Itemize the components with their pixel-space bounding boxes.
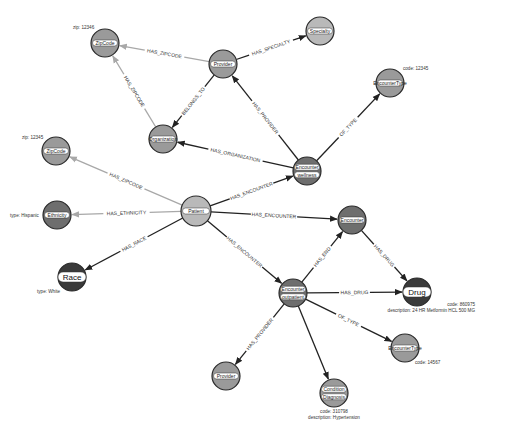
node-label: wellness [297, 172, 317, 178]
node-label: Diagnosis [323, 394, 345, 400]
node-org[interactable]: Organization [149, 125, 178, 153]
node-race[interactable]: Racetype: White [37, 263, 86, 294]
relationship-label: HAS_PROVIDER [245, 316, 275, 351]
node-enc-outpatient[interactable]: Encounteroutpatient [279, 279, 307, 307]
node-property: zip: 12346 [73, 25, 95, 30]
relationship-has-zipcode[interactable]: HAS_ZIPCODE [120, 46, 209, 62]
node-ethnicity[interactable]: Ethnicitytype: Hispanic [10, 201, 71, 229]
relationship-has-ethnicity[interactable]: HAS_ETHNICITY [72, 209, 181, 216]
relationship-has-provider[interactable]: HAS_PROVIDER [235, 304, 284, 364]
node-label: EncounterType [388, 345, 422, 351]
node-provider2[interactable]: Provider [212, 362, 240, 390]
node-label: Ethnicity [48, 212, 67, 218]
node-label: EncounterType [373, 80, 407, 86]
relationship-of-type[interactable]: OF_TYPE [306, 299, 392, 341]
node-property: code: 310798 [320, 409, 348, 414]
node-enctype1[interactable]: EncounterTypecode: 12345 [373, 66, 429, 97]
relationship-has-encounter[interactable]: HAS_ENCOUNTER [211, 211, 337, 220]
node-label: Patient [188, 208, 204, 214]
node-property: code: 860975 [447, 302, 475, 307]
node-label: outpatient [282, 294, 305, 300]
relationship-has-specialty[interactable]: HAS_SPECIALTY [236, 36, 306, 60]
relationship-belongs-to[interactable]: BELONGS_TO [172, 75, 214, 127]
node-property: type: White [37, 289, 60, 294]
relationship-label: OF_TYPE [337, 312, 361, 328]
relationship-has-zipcode[interactable]: HAS_ZIPCODE [113, 56, 156, 127]
nodes-layer: ZipCodezip: 12346ProviderSpecialtyOrgani… [10, 17, 475, 420]
relationship-of-type[interactable]: OF_TYPE [317, 94, 380, 161]
node-label: ZipCode [96, 40, 115, 46]
node-specialty[interactable]: Specialty [306, 17, 334, 45]
relationship-has-end[interactable]: HAS_END [302, 232, 343, 282]
node-property: code: 12345 [403, 66, 429, 71]
relationship-has-drug[interactable]: HAS_DRUG [361, 230, 407, 280]
node-label: Drug [408, 288, 425, 297]
node-property: type: Hispanic [10, 213, 40, 218]
relationship-label: BELONGS_TO [180, 86, 206, 116]
relationship-label: HAS_END [312, 245, 332, 267]
node-label: ZipCode [47, 148, 66, 154]
relationship-label: HAS_PROVIDER [251, 100, 280, 135]
relationship-label: HAS_ORGANIZATION [210, 146, 261, 163]
node-label: Encounter [296, 164, 319, 170]
relationship-label: HAS_ZIPCODE [123, 75, 147, 109]
graph-canvas[interactable]: HAS_ZIPCODEHAS_SPECIALTYBELONGS_TOHAS_ZI… [0, 0, 531, 434]
relationship-has-encounter[interactable]: HAS_ENCOUNTER [210, 176, 293, 206]
node-enctype2[interactable]: EncounterTypecode: 14567 [388, 334, 441, 365]
relationship-has-race[interactable]: HAS_RACE [85, 218, 183, 270]
relationship-edge[interactable] [298, 306, 328, 379]
node-zip2[interactable]: ZipCodezip: 12345 [22, 135, 70, 165]
relationship-label: HAS_SPECIALTY [251, 38, 292, 57]
relationship-has-encounter[interactable]: HAS_ENCOUNTER [207, 221, 281, 284]
node-label: Encounter [341, 217, 364, 223]
relationship-has-zipcode[interactable]: HAS_ZIPCODE [70, 157, 182, 205]
relationship-has-provider[interactable]: HAS_PROVIDER [232, 76, 298, 160]
node-property: description: 24 HR Metformin HCL 500 MG [388, 308, 476, 313]
node-condition[interactable]: ConditionDiagnosiscode: 310798descriptio… [308, 379, 360, 420]
node-drug[interactable]: Drugcode: 860975description: 24 HR Metfo… [388, 278, 476, 313]
relationship-label: HAS_DRUG [341, 289, 369, 295]
node-provider1[interactable]: Provider [209, 50, 237, 78]
node-label: Condition [323, 386, 344, 392]
relationship-label: HAS_ZIPCODE [147, 47, 183, 59]
node-label: Encounter [282, 286, 305, 292]
node-label: Race [63, 273, 82, 282]
relationship-label: HAS_ENCOUNTER [226, 235, 264, 269]
relationship-label: OF_TYPE [338, 116, 358, 137]
relationship-label: HAS_ETHNICITY [107, 209, 147, 216]
node-encounter[interactable]: Encounter [338, 206, 366, 234]
relationship-label: HAS_ENCOUNTER [229, 180, 273, 201]
node-property: description: Hypertension [308, 415, 360, 420]
node-label: Organization [149, 136, 178, 142]
node-property: code: 14567 [415, 360, 441, 365]
node-label: Specialty [310, 28, 331, 34]
node-patient[interactable]: Patient [181, 196, 211, 226]
node-label: Provider [214, 61, 233, 67]
node-enc-wellness[interactable]: Encounterwellness [293, 157, 321, 185]
relationship-has-drug[interactable]: HAS_DRUG [307, 289, 402, 295]
relationship-label: HAS_ENCOUNTER [252, 211, 297, 220]
relationship-has-organization[interactable]: HAS_ORGANIZATION [178, 142, 294, 168]
node-label: Provider [217, 373, 236, 379]
relationship-label: HAS_RACE [121, 234, 148, 252]
relationship-label: HAS_ZIPCODE [109, 171, 144, 191]
node-zip1[interactable]: ZipCodezip: 12346 [73, 25, 119, 57]
relationship-label: HAS_DRUG [373, 243, 396, 268]
node-property: zip: 12345 [22, 135, 44, 140]
